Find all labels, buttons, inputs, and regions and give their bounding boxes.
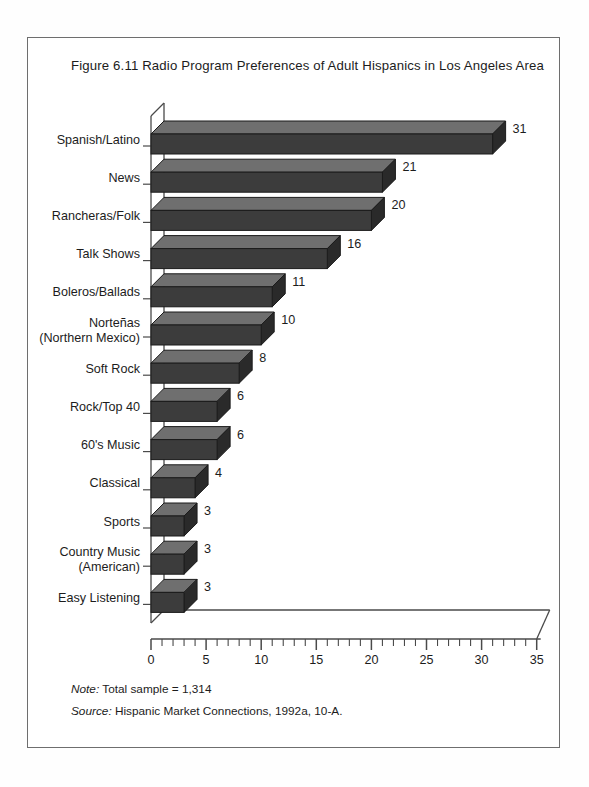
category-label-line: News	[30, 171, 140, 186]
bar	[151, 579, 197, 612]
x-tick-label: 10	[246, 653, 276, 667]
category-label: Boleros/Ballads	[30, 285, 140, 300]
category-label-line: Classical	[30, 476, 140, 491]
bar	[151, 197, 384, 230]
bar-top-face	[151, 350, 252, 363]
bar-top-face	[151, 388, 230, 401]
category-label: Rancheras/Folk	[30, 209, 140, 224]
note-text: Total sample = 1,314	[99, 682, 211, 696]
source-line: Source: Hispanic Market Connections, 199…	[71, 704, 342, 718]
category-label-line: (Northern Mexico)	[30, 331, 140, 346]
bar-top-face	[151, 159, 395, 172]
category-label-line: Sports	[30, 515, 140, 530]
category-label-line: Talk Shows	[30, 247, 140, 262]
category-label: Easy Listening	[30, 591, 140, 606]
bar	[151, 541, 197, 574]
bar-front-face	[151, 210, 371, 230]
x-tick-label: 20	[356, 653, 386, 667]
bar	[151, 159, 395, 192]
note-prefix: Note:	[71, 682, 99, 696]
category-label-line: Country Music	[30, 545, 140, 560]
bar-top-face	[151, 427, 230, 440]
category-label: Sports	[30, 515, 140, 530]
bar-value-label: 3	[204, 504, 211, 518]
bar-value-label: 3	[204, 580, 211, 594]
bar-value-label: 3	[204, 542, 211, 556]
bar-value-label: 20	[391, 198, 405, 212]
bar-front-face	[151, 249, 327, 269]
bar-front-face	[151, 554, 184, 574]
bar-top-face	[151, 197, 384, 210]
bar	[151, 312, 274, 345]
x-tick-label: 35	[522, 653, 552, 667]
bar	[151, 388, 230, 421]
category-label: Rock/Top 40	[30, 400, 140, 415]
category-label-line: Easy Listening	[30, 591, 140, 606]
bar-top-face	[151, 274, 285, 287]
note-line: Note: Total sample = 1,314	[71, 682, 211, 696]
x-tick-label: 25	[412, 653, 442, 667]
x-tick-label: 5	[191, 653, 221, 667]
bar-front-face	[151, 440, 217, 460]
bar-value-label: 8	[259, 351, 266, 365]
x-tick-label: 0	[136, 653, 166, 667]
bar-value-label: 10	[281, 313, 295, 327]
category-label: Country Music(American)	[30, 545, 140, 575]
bar	[151, 274, 285, 307]
x-tick-label: 30	[467, 653, 497, 667]
bar-value-label: 31	[513, 122, 527, 136]
bar-front-face	[151, 287, 272, 307]
bar-front-face	[151, 325, 261, 345]
bar-value-label: 16	[347, 237, 361, 251]
bar-front-face	[151, 363, 239, 383]
bar-chart: 3121201611108664333Spanish/LatinoNewsRan…	[28, 38, 561, 749]
bar-front-face	[151, 478, 195, 498]
category-label-line: 60's Music	[30, 438, 140, 453]
category-label-line: Boleros/Ballads	[30, 285, 140, 300]
bar-front-face	[151, 592, 184, 612]
category-label-line: Soft Rock	[30, 362, 140, 377]
category-label: Spanish/Latino	[30, 133, 140, 148]
bar	[151, 503, 197, 536]
bar-value-label: 4	[215, 466, 222, 480]
figure-page: Figure 6.11 Radio Program Preferences of…	[0, 0, 589, 787]
category-label: Soft Rock	[30, 362, 140, 377]
bar-front-face	[151, 172, 382, 192]
category-label-line: (American)	[30, 560, 140, 575]
bar-value-label: 11	[292, 275, 305, 289]
bar-front-face	[151, 516, 184, 536]
category-label-line: Rock/Top 40	[30, 400, 140, 415]
category-label: News	[30, 171, 140, 186]
bar	[151, 236, 340, 269]
bar-top-face	[151, 236, 340, 249]
bar-front-face	[151, 134, 493, 154]
bar	[151, 121, 506, 154]
category-label: Classical	[30, 476, 140, 491]
bar	[151, 465, 208, 498]
x-tick-label: 15	[301, 653, 331, 667]
category-label-line: Spanish/Latino	[30, 133, 140, 148]
bar-value-label: 6	[237, 428, 244, 442]
bar	[151, 427, 230, 460]
bar-front-face	[151, 401, 217, 421]
bar	[151, 350, 252, 383]
source-prefix: Source:	[71, 704, 112, 718]
category-label-line: Norteñas	[30, 316, 140, 331]
category-label-line: Rancheras/Folk	[30, 209, 140, 224]
bar-top-face	[151, 312, 274, 325]
bar-value-label: 6	[237, 389, 244, 403]
category-label: 60's Music	[30, 438, 140, 453]
figure-border: Figure 6.11 Radio Program Preferences of…	[27, 37, 560, 748]
bar-value-label: 21	[402, 160, 416, 174]
category-label: Norteñas(Northern Mexico)	[30, 316, 140, 346]
bar-top-face	[151, 121, 506, 134]
source-text: Hispanic Market Connections, 1992a, 10-A…	[112, 704, 343, 718]
category-label: Talk Shows	[30, 247, 140, 262]
